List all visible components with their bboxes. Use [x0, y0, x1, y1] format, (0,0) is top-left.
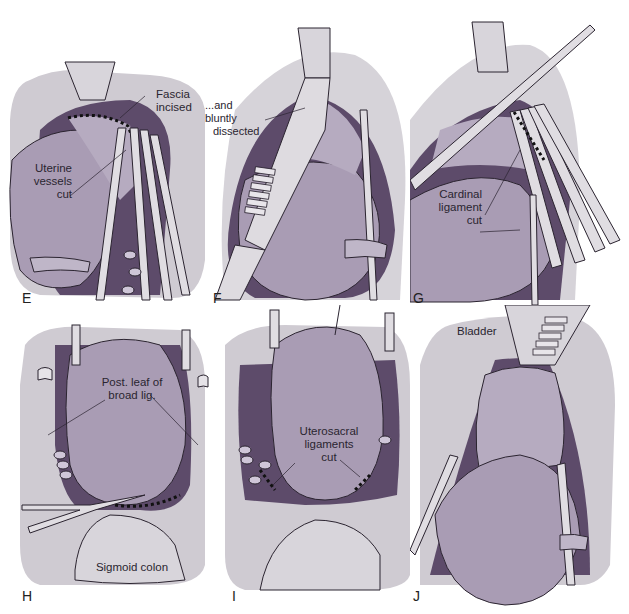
panel-e: Fascia incised Uterine vessels cut E: [0, 0, 210, 305]
panel-h: Post. leaf of broad lig. Sigmoid colon H: [0, 305, 210, 614]
label-sigmoid-colon: Sigmoid colon: [82, 561, 182, 574]
panel-f-illustration: [205, 0, 415, 305]
label-line: incised: [156, 101, 192, 114]
label-uterosacral-ligaments-cut: Uterosacral ligaments cut: [289, 425, 369, 464]
label-line: vessels: [20, 175, 72, 188]
label-uterine-vessels-cut: Uterine vessels cut: [20, 162, 72, 201]
panel-f: ...and bluntly dissected F: [205, 0, 415, 305]
label-line: cut: [430, 214, 482, 227]
label-line: Fascia: [156, 88, 192, 101]
label-line: broad lig.: [92, 389, 172, 402]
panel-g-illustration: [410, 0, 629, 305]
panel-letter-h: H: [22, 588, 32, 604]
label-bluntly-dissected: ...and bluntly dissected: [205, 99, 265, 138]
panel-letter-i: I: [232, 588, 236, 604]
panel-g: Cardinal ligament cut G: [410, 0, 629, 305]
label-line: Uterosacral: [289, 425, 369, 438]
label-line: Uterine: [20, 162, 72, 175]
label-post-leaf-broad-lig: Post. leaf of broad lig.: [92, 376, 172, 402]
label-line: cut: [20, 188, 72, 201]
panel-i: Uterosacral ligaments cut I: [205, 305, 415, 614]
label-line: cut: [289, 451, 369, 464]
label-line: dissected: [205, 125, 265, 138]
panel-letter-g: G: [413, 290, 424, 306]
label-line: Cardinal: [430, 188, 482, 201]
label-bladder: Bladder: [457, 325, 497, 338]
label-fascia-incised: Fascia incised: [156, 88, 192, 114]
label-line: ligaments: [289, 438, 369, 451]
panel-j-illustration: [410, 305, 629, 614]
label-line: ...and bluntly: [205, 99, 265, 125]
panel-letter-f: F: [213, 290, 222, 306]
label-cardinal-ligament-cut: Cardinal ligament cut: [430, 188, 482, 227]
panel-letter-j: J: [413, 588, 420, 604]
panel-j: Bladder J: [410, 305, 629, 614]
label-line: ligament: [430, 201, 482, 214]
panel-e-illustration: [0, 0, 210, 305]
label-line: Post. leaf of: [92, 376, 172, 389]
panel-letter-e: E: [22, 290, 31, 306]
